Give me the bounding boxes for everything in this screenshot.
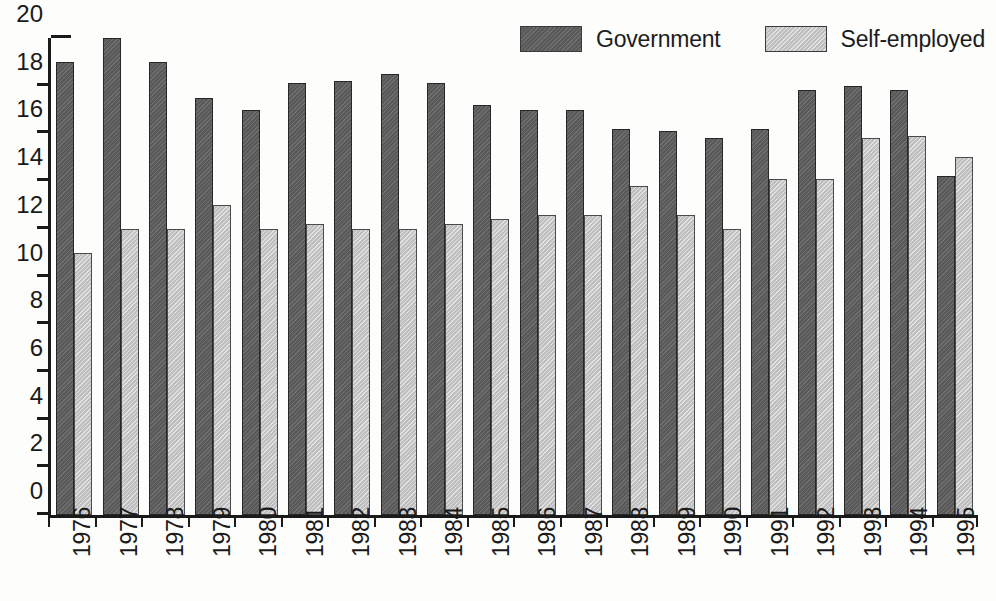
x-axis-label-cell-1994: 1994 bbox=[885, 528, 932, 600]
x-axis-label-cell-1985: 1985 bbox=[467, 528, 514, 600]
bar-self-employed-1989 bbox=[677, 215, 695, 516]
x-axis-label-cell-1980: 1980 bbox=[234, 528, 281, 600]
x-axis-label-1983: 1983 bbox=[397, 507, 420, 557]
bar-government-1994 bbox=[890, 90, 908, 515]
legend-label-government: Government bbox=[596, 28, 721, 51]
bar-chart: Government Self-employed 024681012141618… bbox=[0, 0, 996, 601]
bar-self-employed-1977 bbox=[121, 229, 139, 515]
x-axis-label-1982: 1982 bbox=[350, 507, 373, 557]
y-axis-label-10: 10 bbox=[16, 241, 43, 265]
bar-self-employed-1976 bbox=[74, 253, 92, 515]
bar-group-1978 bbox=[144, 38, 190, 515]
x-axis-label-cell-1982: 1982 bbox=[327, 528, 374, 600]
bar-self-employed-1978 bbox=[167, 229, 185, 515]
bar-self-employed-1984 bbox=[445, 224, 463, 515]
x-axis-label-cell-1988: 1988 bbox=[606, 528, 653, 600]
bar-group-1993 bbox=[839, 38, 885, 515]
y-axis-tick-14 bbox=[37, 178, 51, 181]
bar-government-1993 bbox=[844, 86, 862, 515]
bar-government-1995 bbox=[937, 176, 955, 515]
x-axis-label-cell-1989: 1989 bbox=[653, 528, 700, 600]
bar-government-1978 bbox=[149, 62, 167, 515]
bar-government-1991 bbox=[751, 129, 769, 515]
y-axis-tick-6 bbox=[37, 369, 51, 372]
y-axis-tick-10 bbox=[37, 274, 51, 277]
x-axis-label-1978: 1978 bbox=[164, 507, 187, 557]
legend-item-government: Government bbox=[520, 26, 721, 52]
bar-group-1982 bbox=[329, 38, 375, 515]
x-axis-label-1976: 1976 bbox=[71, 507, 94, 557]
x-axis-label-1984: 1984 bbox=[443, 507, 466, 557]
bar-group-1983 bbox=[375, 38, 421, 515]
bar-government-1992 bbox=[798, 90, 816, 515]
bar-government-1983 bbox=[381, 74, 399, 515]
x-axis-label-1985: 1985 bbox=[490, 507, 513, 557]
bar-group-1988 bbox=[607, 38, 653, 515]
x-axis-label-cell-1976: 1976 bbox=[48, 528, 95, 600]
bar-group-1979 bbox=[190, 38, 236, 515]
bar-government-1977 bbox=[103, 38, 121, 515]
bar-self-employed-1979 bbox=[213, 205, 231, 515]
bar-government-1985 bbox=[473, 105, 491, 515]
bar-group-1992 bbox=[793, 38, 839, 515]
bar-group-1976 bbox=[51, 38, 97, 515]
x-axis-label-1991: 1991 bbox=[769, 507, 792, 557]
bar-group-1994 bbox=[885, 38, 931, 515]
bar-government-1986 bbox=[520, 110, 538, 515]
x-axis-labels: 1976197719781979198019811982198319841985… bbox=[48, 528, 978, 600]
plot-area: 02468101214161820 bbox=[48, 38, 978, 518]
bar-government-1987 bbox=[566, 110, 584, 515]
bar-government-1981 bbox=[288, 83, 306, 515]
x-axis-label-cell-1979: 1979 bbox=[188, 528, 235, 600]
bar-group-1981 bbox=[283, 38, 329, 515]
y-axis-label-12: 12 bbox=[16, 193, 43, 217]
x-axis-label-1979: 1979 bbox=[211, 507, 234, 557]
bar-self-employed-1986 bbox=[538, 215, 556, 516]
x-axis-label-cell-1987: 1987 bbox=[560, 528, 607, 600]
x-axis-label-1989: 1989 bbox=[676, 507, 699, 557]
bar-group-1991 bbox=[746, 38, 792, 515]
x-axis-label-cell-1981: 1981 bbox=[281, 528, 328, 600]
bar-group-1990 bbox=[700, 38, 746, 515]
x-axis-label-1988: 1988 bbox=[629, 507, 652, 557]
chart-legend: Government Self-employed bbox=[520, 26, 985, 52]
bar-self-employed-1981 bbox=[306, 224, 324, 515]
y-axis-label-18: 18 bbox=[16, 50, 43, 74]
bar-group-1995 bbox=[932, 38, 978, 515]
x-axis-label-cell-1978: 1978 bbox=[141, 528, 188, 600]
x-axis-label-1990: 1990 bbox=[722, 507, 745, 557]
x-axis-label-1981: 1981 bbox=[304, 507, 327, 557]
bar-government-1984 bbox=[427, 83, 445, 515]
x-axis-label-1977: 1977 bbox=[118, 507, 141, 557]
x-axis-label-1986: 1986 bbox=[536, 507, 559, 557]
x-axis-label-1992: 1992 bbox=[815, 507, 838, 557]
bar-self-employed-1980 bbox=[260, 229, 278, 515]
y-axis-label-16: 16 bbox=[16, 97, 43, 121]
x-axis-label-1980: 1980 bbox=[257, 507, 280, 557]
x-axis-label-cell-1986: 1986 bbox=[513, 528, 560, 600]
bar-self-employed-1991 bbox=[769, 179, 787, 515]
y-axis-tick-8 bbox=[37, 321, 51, 324]
legend-label-self-employed: Self-employed bbox=[841, 28, 985, 51]
bar-group-1980 bbox=[236, 38, 282, 515]
y-axis-tick-4 bbox=[37, 417, 51, 420]
bar-self-employed-1993 bbox=[862, 138, 880, 515]
bar-group-1984 bbox=[422, 38, 468, 515]
x-axis-label-1994: 1994 bbox=[908, 507, 931, 557]
y-axis-label-14: 14 bbox=[16, 145, 43, 169]
y-axis-label-0: 0 bbox=[30, 479, 43, 503]
bar-self-employed-1987 bbox=[584, 215, 602, 516]
y-axis-label-4: 4 bbox=[30, 384, 43, 408]
y-axis-label-6: 6 bbox=[30, 336, 43, 360]
y-axis-tick-0 bbox=[37, 512, 51, 515]
bar-self-employed-1994 bbox=[908, 136, 926, 515]
bar-government-1976 bbox=[56, 62, 74, 515]
bar-self-employed-1982 bbox=[352, 229, 370, 515]
bar-group-1987 bbox=[561, 38, 607, 515]
y-axis-tick-18 bbox=[37, 83, 51, 86]
legend-swatch-self-employed bbox=[765, 26, 827, 52]
bar-self-employed-1983 bbox=[399, 229, 417, 515]
legend-item-self-employed: Self-employed bbox=[765, 26, 985, 52]
y-axis-tick-16 bbox=[37, 130, 51, 133]
y-axis-label-20: 20 bbox=[16, 2, 43, 26]
